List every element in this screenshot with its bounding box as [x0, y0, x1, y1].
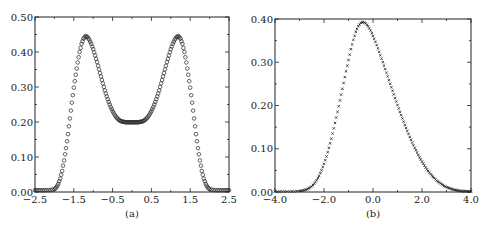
- data-series: [33, 34, 231, 192]
- panel-b: −4.0−2.00.02.04.00.000.100.200.300.40(b): [251, 14, 479, 220]
- circle-marker: [195, 139, 199, 143]
- x-marker: [378, 51, 380, 53]
- x-marker: [390, 86, 392, 88]
- circle-marker: [183, 50, 187, 54]
- circle-marker: [67, 125, 71, 129]
- x-marker: [344, 76, 346, 78]
- x-marker: [355, 31, 357, 33]
- x-marker: [338, 105, 340, 107]
- x-marker: [371, 32, 373, 34]
- x-marker: [372, 35, 374, 37]
- x-marker: [317, 177, 319, 179]
- x-marker: [400, 114, 402, 116]
- x-marker: [385, 72, 387, 74]
- y-tick-label: 0.30: [251, 57, 273, 68]
- x-marker: [391, 90, 393, 92]
- x-marker: [342, 82, 344, 84]
- x-marker: [323, 163, 325, 165]
- circle-marker: [185, 67, 189, 71]
- x-marker: [407, 133, 409, 135]
- y-tick-label: 0.30: [11, 82, 33, 93]
- x-marker: [368, 27, 370, 29]
- circle-marker: [158, 85, 162, 89]
- x-marker: [373, 38, 375, 40]
- circle-marker: [76, 61, 80, 65]
- x-marker: [377, 47, 379, 49]
- panel-caption: (b): [366, 208, 380, 219]
- circle-marker: [185, 61, 189, 65]
- x-marker: [350, 48, 352, 50]
- circle-marker: [192, 117, 196, 121]
- x-marker: [418, 156, 420, 158]
- figure: −2.5−1.5−0.50.51.52.50.000.100.200.300.4…: [0, 0, 488, 232]
- x-marker: [347, 59, 349, 61]
- x-marker: [345, 70, 347, 72]
- circle-marker: [79, 46, 83, 50]
- circle-marker: [187, 79, 191, 83]
- y-tick-label: 0.40: [11, 47, 33, 58]
- circle-marker: [199, 164, 203, 168]
- circle-marker: [63, 153, 67, 157]
- x-marker: [402, 120, 404, 122]
- x-marker: [413, 147, 415, 149]
- circle-marker: [186, 73, 190, 77]
- circle-marker: [97, 68, 101, 72]
- circle-marker: [193, 125, 197, 129]
- x-marker: [388, 79, 390, 81]
- circle-marker: [65, 139, 69, 143]
- y-tick-label: 0.10: [251, 143, 273, 154]
- x-marker: [379, 54, 381, 56]
- circle-marker: [61, 164, 65, 168]
- circle-marker: [190, 101, 194, 105]
- x-marker: [351, 43, 353, 45]
- x-marker: [404, 124, 406, 126]
- circle-marker: [191, 109, 195, 113]
- x-marker: [346, 64, 348, 66]
- x-marker: [369, 29, 371, 31]
- circle-marker: [188, 86, 192, 90]
- x-marker: [396, 104, 398, 106]
- circle-marker: [162, 71, 166, 75]
- x-tick-label: 2.0: [414, 194, 430, 205]
- circle-marker: [99, 75, 103, 79]
- circle-marker: [68, 117, 72, 121]
- x-marker: [318, 175, 320, 177]
- circle-marker: [101, 82, 105, 86]
- x-marker: [331, 132, 333, 134]
- x-marker: [320, 169, 322, 171]
- circle-marker: [200, 169, 204, 173]
- circle-marker: [71, 93, 75, 97]
- x-marker: [335, 116, 337, 118]
- circle-marker: [164, 64, 168, 68]
- data-series: [274, 21, 472, 193]
- plot-frame: [275, 19, 471, 192]
- panel-caption: (a): [125, 208, 139, 219]
- x-marker: [326, 151, 328, 153]
- x-marker: [380, 58, 382, 60]
- x-marker: [353, 35, 355, 37]
- x-marker: [398, 107, 400, 109]
- panel-a: −2.5−1.5−0.50.51.52.50.000.100.200.300.4…: [11, 12, 237, 220]
- circle-marker: [201, 173, 205, 177]
- x-marker: [411, 141, 413, 143]
- circle-marker: [160, 78, 164, 82]
- x-marker: [416, 151, 418, 153]
- y-tick-label: 0.40: [251, 14, 273, 25]
- circle-marker: [196, 146, 200, 150]
- circle-marker: [77, 55, 81, 59]
- plot-frame: [35, 17, 229, 192]
- circle-marker: [70, 101, 74, 105]
- x-marker: [410, 139, 412, 141]
- circle-marker: [182, 46, 186, 50]
- circle-marker: [72, 86, 76, 90]
- x-marker: [387, 75, 389, 77]
- circle-marker: [62, 159, 66, 163]
- x-marker: [334, 122, 336, 124]
- x-marker: [328, 147, 330, 149]
- x-marker: [349, 53, 351, 55]
- x-marker: [319, 172, 321, 174]
- x-tick-label: 1.5: [182, 194, 198, 205]
- circle-marker: [198, 159, 202, 163]
- circle-marker: [78, 50, 82, 54]
- circle-marker: [102, 85, 106, 89]
